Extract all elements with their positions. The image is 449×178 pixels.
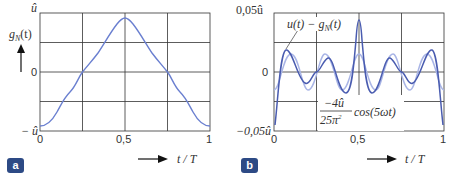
panel-b-xtick-0: 0 (271, 133, 277, 145)
panel-a-xtick-05: 0,5 (116, 133, 131, 145)
panel-b-x-arrow-icon (367, 155, 397, 163)
panel-b-xlabel: t / T (405, 152, 426, 166)
panel-a-xtick-1: 1 (206, 133, 212, 145)
panel-b-ytick-top: 0,05û (236, 3, 263, 17)
panel-a-x-arrow-icon (138, 155, 168, 163)
panel-a-xtick-0: 0 (37, 133, 43, 145)
panel-a-grid (40, 13, 210, 131)
panel-b-ytick-bottom: −0,05û (236, 124, 271, 138)
panel-b-badge: b (241, 158, 258, 173)
panel-a-badge: a (7, 158, 24, 173)
panel-a-ylabel: gN(t) (9, 27, 32, 43)
panel-a-ytick-zero: 0 (31, 66, 37, 78)
figure: û gN(t) 0 − û 0 0,5 1 t / T 0,05û 0 −0,0… (0, 0, 449, 178)
panel-b-annotation-leader (286, 30, 298, 49)
panel-b-xtick-05: 0,5 (350, 133, 365, 145)
panel-a-ytick-bottom: − û (21, 124, 38, 138)
panel-a-ytick-top: û (31, 1, 37, 15)
panel-b-xtick-1: 1 (440, 133, 446, 145)
svg-text:−4û: −4û (324, 96, 344, 110)
panel-b-annotation-error: u(t) − gN(t) (287, 17, 341, 33)
svg-text:cos(5ωt): cos(5ωt) (354, 105, 396, 119)
panel-a-xlabel: t / T (177, 152, 198, 166)
panel-b-ytick-zero: 0 (262, 66, 268, 78)
panel-a-y-arrow-icon (17, 44, 25, 72)
